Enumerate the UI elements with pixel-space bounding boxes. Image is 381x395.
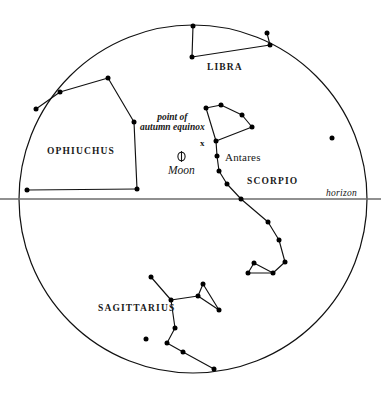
star-ophiuchus <box>25 188 30 193</box>
moon-symbol-icon <box>175 150 188 163</box>
libra-label: LIBRA <box>207 62 243 72</box>
constellation-line-scorpio <box>241 199 268 222</box>
star-sagittarius <box>196 294 201 299</box>
antares-label: Antares <box>225 152 261 164</box>
star-scorpio <box>266 220 271 225</box>
constellation-line-libra <box>192 26 193 57</box>
scorpio-label: SCORPIO <box>247 176 298 186</box>
star-scorpio <box>239 197 244 202</box>
equinox-x-marker: x <box>200 139 205 149</box>
field-star-sagittarius <box>144 337 149 342</box>
star-scorpio <box>225 182 230 187</box>
moon-label: Moon <box>168 164 195 176</box>
constellation-line-ophiuchus <box>27 189 137 190</box>
constellation-line-ophiuchus <box>134 122 137 189</box>
star-scorpio <box>246 271 251 276</box>
constellation-line-scorpio <box>216 127 252 141</box>
star-ophiuchus <box>135 187 140 192</box>
field-star-right <box>330 136 335 141</box>
star-sagittarius <box>217 308 222 313</box>
constellation-line-ophiuchus <box>108 78 134 122</box>
star-sagittarius <box>201 282 206 287</box>
constellation-line-libra <box>192 45 270 57</box>
star-libra <box>268 43 273 48</box>
equinox-line-1: point of <box>140 112 205 122</box>
star-scorpio <box>204 106 209 111</box>
horizon-label: horizon <box>326 188 357 198</box>
star-ophiuchus <box>106 76 111 81</box>
constellation-line-sagittarius <box>171 296 198 300</box>
star-scorpio <box>271 271 276 276</box>
star-scorpio <box>252 261 257 266</box>
autumn-equinox-annotation: point of autumn equinox <box>140 112 205 133</box>
star-sagittarius <box>149 275 154 280</box>
constellation-line-sagittarius <box>203 284 219 310</box>
star-libra <box>190 55 195 60</box>
star-ophiuchus <box>58 90 63 95</box>
constellation-line-scorpio <box>268 222 279 240</box>
star-ophiuchus <box>34 107 39 112</box>
star-chart: LIBRA OPHIUCHUS SCORPIO SAGITTARIUS Anta… <box>0 0 381 395</box>
star-sagittarius <box>165 341 170 346</box>
ophiuchus-label: OPHIUCHUS <box>47 146 115 156</box>
star-scorpio <box>283 260 288 265</box>
constellation-line-scorpio <box>279 240 285 262</box>
constellation-line-scorpio <box>227 184 241 199</box>
star-sagittarius <box>169 298 174 303</box>
star-scorpio <box>215 154 220 159</box>
star-scorpio <box>277 238 282 243</box>
star-ophiuchus <box>132 120 137 125</box>
star-scorpio <box>240 113 245 118</box>
star-sagittarius <box>181 350 186 355</box>
star-scorpio <box>217 169 222 174</box>
star-scorpio <box>214 139 219 144</box>
constellation-line-ophiuchus <box>36 92 60 109</box>
star-scorpio <box>250 125 255 130</box>
sagittarius-label: SAGITTARIUS <box>98 303 175 313</box>
constellation-line-ophiuchus <box>60 78 108 92</box>
constellation-line-sagittarius <box>151 277 171 300</box>
constellation-line-scorpio <box>254 263 273 273</box>
star-libra <box>265 31 270 36</box>
star-libra <box>191 24 196 29</box>
constellation-line-sagittarius <box>198 296 219 310</box>
star-scorpio <box>219 103 224 108</box>
constellation-line-sagittarius <box>183 352 214 369</box>
constellation-line-scorpio <box>206 108 216 141</box>
star-sagittarius <box>173 326 178 331</box>
equinox-line-2: autumn equinox <box>140 122 205 132</box>
sky-diagram <box>0 0 381 395</box>
star-sagittarius <box>212 367 217 372</box>
constellation-line-sagittarius <box>167 343 183 352</box>
constellation-line-sagittarius <box>167 328 175 343</box>
constellation-line-scorpio <box>221 105 242 115</box>
